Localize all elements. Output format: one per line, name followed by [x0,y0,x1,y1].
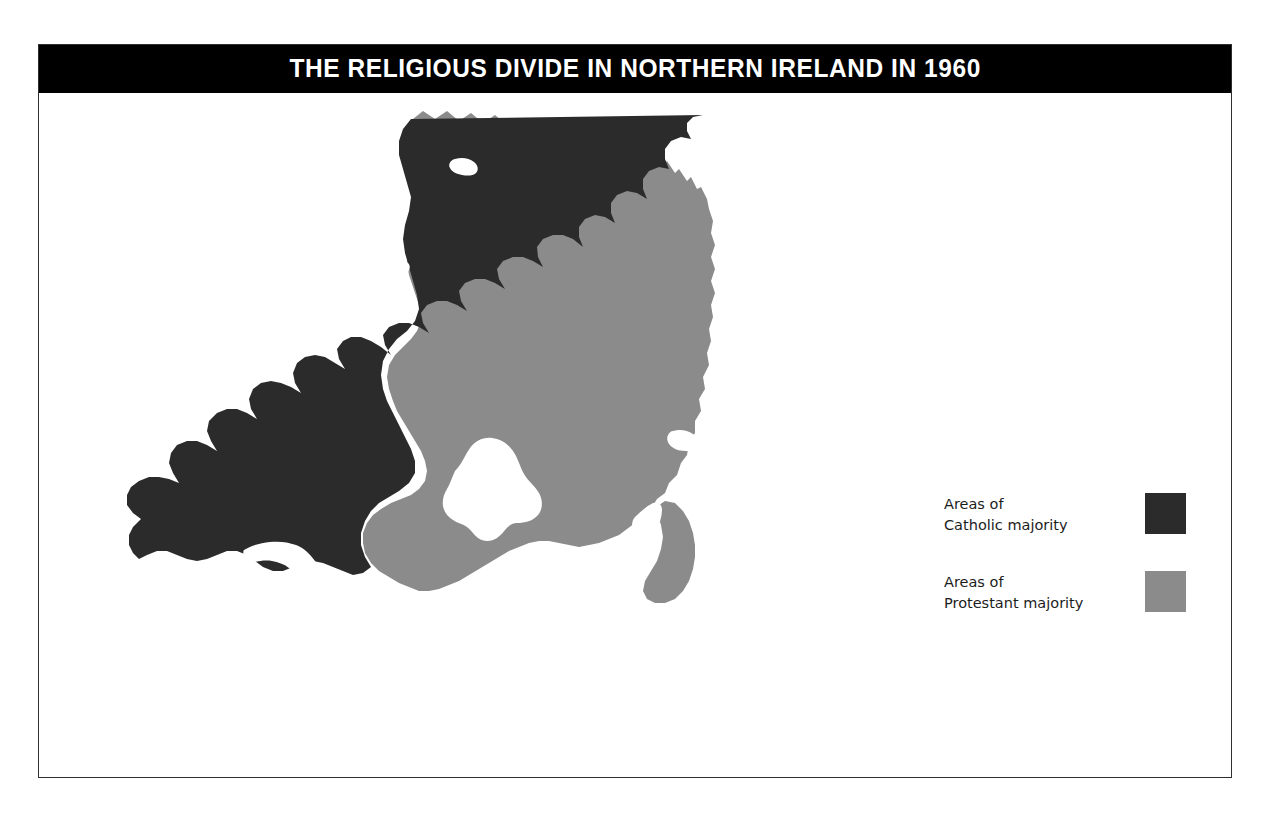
title-banner: THE RELIGIOUS DIVIDE IN NORTHERN IRELAND… [39,45,1231,93]
map-legend: Areas of Catholic majority Areas of Prot… [944,493,1194,649]
legend-label-protestant: Areas of Protestant majority [944,571,1083,613]
legend-label-catholic: Areas of Catholic majority [944,493,1068,535]
figure-frame: THE RELIGIOUS DIVIDE IN NORTHERN IRELAND… [38,44,1232,778]
map-plate: Areas of Catholic majority Areas of Prot… [39,93,1231,777]
legend-item-catholic: Areas of Catholic majority [944,493,1194,535]
legend-item-protestant: Areas of Protestant majority [944,571,1194,613]
page-title: THE RELIGIOUS DIVIDE IN NORTHERN IRELAND… [289,56,980,82]
catholic-majority-swatch [1145,493,1186,534]
northern-ireland-map [61,99,911,739]
map-silhouette-final [61,99,911,739]
protestant-majority-swatch [1145,571,1186,612]
